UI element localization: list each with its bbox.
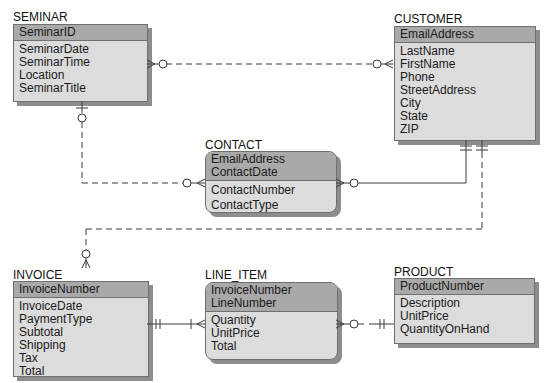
relationship-customer-contact [336, 140, 472, 187]
relationship-seminar-customer [147, 60, 393, 68]
relationship-customer-invoice [82, 140, 488, 268]
relationship-product-line-item [336, 319, 394, 329]
relationship-invoice-line-item [147, 319, 205, 329]
relationship-seminar-contact [76, 101, 205, 187]
relationship-lines [0, 0, 553, 383]
